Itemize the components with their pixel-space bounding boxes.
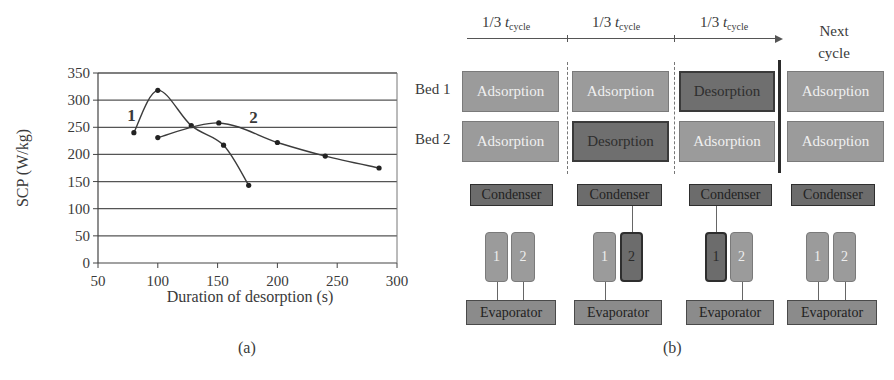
y-tick-label: 50 [75, 228, 90, 244]
phase-box-adsorption: Adsorption [462, 121, 559, 162]
phase-box-desorption: Desorption [572, 121, 669, 162]
series-1-point [246, 183, 251, 188]
phase-label-3: 1/3 tcycle [700, 14, 748, 32]
condenser-connection-line [716, 206, 717, 232]
phase-box-desorption: Desorption [679, 71, 775, 112]
x-tick-label: 50 [91, 273, 106, 289]
evaporator-box: Evaporator [787, 300, 877, 325]
phase-subscript: cycle [509, 21, 530, 32]
timeline-tick [674, 35, 675, 42]
y-axis-label: SCP (W/kg) [14, 129, 32, 207]
phase-box-adsorption: Adsorption [787, 71, 884, 112]
phase-fraction: 1/3 [482, 14, 505, 30]
adsorber-bed-2: 2 [833, 232, 856, 282]
x-tick-label: 100 [147, 273, 170, 289]
adsorber-bed-1: 1 [705, 232, 727, 282]
timeline-axis [467, 38, 777, 39]
series-1-point [221, 143, 226, 148]
phase-box-adsorption: Adsorption [787, 121, 884, 162]
evaporator-box: Evaporator [686, 300, 774, 325]
next-cycle-line2: cycle [804, 42, 864, 64]
series-2-point [275, 140, 280, 145]
series-1-point [131, 130, 136, 135]
phase-fraction: 1/3 [592, 14, 615, 30]
series-label-1: 1 [127, 106, 136, 125]
condenser-box: Condenser [577, 184, 662, 206]
y-tick-label: 0 [83, 255, 91, 271]
phase-divider [567, 62, 568, 174]
condenser-box: Condenser [470, 184, 553, 206]
cycle-divider [778, 60, 781, 173]
y-tick-label: 250 [68, 119, 91, 135]
x-tick-label: 250 [326, 273, 349, 289]
adsorber-bed-1: 1 [806, 232, 829, 282]
condenser-box: Condenser [791, 184, 875, 206]
phase-box-adsorption: Adsorption [679, 121, 775, 162]
phase-divider [674, 62, 675, 174]
tick-labels: 0501001502002503003505010015020025030012 [68, 65, 409, 289]
adsorber-bed-2: 2 [620, 232, 643, 282]
y-tick-label: 350 [68, 65, 91, 81]
phase-subscript: cycle [619, 21, 640, 32]
series-2-line [158, 123, 379, 168]
series-1-point [155, 88, 160, 93]
series-2-point [376, 165, 381, 170]
next-cycle-label: Next cycle [804, 20, 864, 64]
phase-label-2: 1/3 tcycle [592, 14, 640, 32]
y-tick-label: 150 [68, 174, 91, 190]
bed-2-label: Bed 2 [415, 131, 450, 148]
evaporator-connection-line [497, 282, 498, 300]
y-tick-label: 300 [68, 92, 91, 108]
phase-subscript: cycle [727, 21, 748, 32]
x-axis-label: Duration of desorption (s) [167, 288, 334, 306]
phase-fraction: 1/3 [700, 14, 723, 30]
next-cycle-line1: Next [804, 20, 864, 42]
timeline-tick [567, 35, 568, 42]
series-2-point [155, 135, 160, 140]
evaporator-connection-line [845, 282, 846, 300]
y-tick-label: 100 [68, 201, 91, 217]
gridlines [98, 73, 397, 236]
bed-1-label: Bed 1 [415, 81, 450, 98]
condenser-connection-line [632, 206, 633, 232]
adsorber-bed-2: 2 [511, 232, 535, 282]
phase-box-adsorption: Adsorption [462, 71, 559, 112]
x-tick-label: 300 [386, 273, 409, 289]
y-tick-label: 200 [68, 146, 91, 162]
diagram-caption: (b) [663, 339, 682, 357]
adsorber-bed-1: 1 [485, 232, 508, 282]
phase-box-adsorption: Adsorption [572, 71, 669, 112]
timeline-arrow-icon [775, 35, 783, 43]
series-group [131, 88, 381, 188]
chart-caption: (a) [238, 339, 256, 357]
axes [93, 73, 397, 268]
evaporator-box: Evaporator [574, 300, 662, 325]
adsorber-bed-1: 1 [593, 232, 616, 282]
series-label-2: 2 [249, 108, 258, 127]
series-2-point [323, 153, 328, 158]
series-1-line [134, 90, 249, 185]
evaporator-connection-line [742, 282, 743, 300]
evaporator-connection-line [605, 282, 606, 300]
evaporator-connection-line [523, 282, 524, 300]
evaporator-connection-line [818, 282, 819, 300]
x-tick-label: 200 [266, 273, 289, 289]
series-2-point [216, 120, 221, 125]
adsorber-bed-2: 2 [730, 232, 753, 282]
x-tick-label: 150 [206, 273, 229, 289]
phase-label-1: 1/3 tcycle [482, 14, 530, 32]
condenser-box: Condenser [689, 184, 772, 206]
evaporator-box: Evaporator [466, 300, 556, 325]
